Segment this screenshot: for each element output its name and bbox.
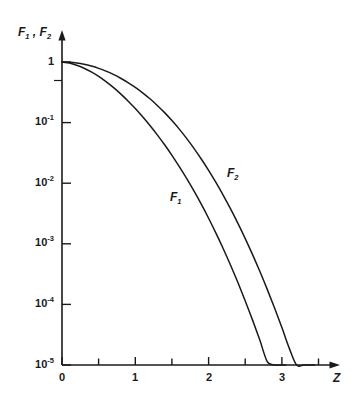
curve-label-f1: F1	[170, 191, 182, 203]
y-tick-label-1e-5: 10-5	[10, 359, 54, 370]
y-tick-label-1e-4: 10-4	[10, 298, 54, 309]
curve-label-f2: F2	[227, 167, 239, 179]
y-tick-label-1e-2: 10-2	[10, 177, 54, 188]
y-tick-label-1e-3: 10-3	[10, 237, 54, 248]
x-axis-title: Z	[333, 372, 340, 384]
y-axis-arrowhead	[58, 30, 65, 41]
x-tick-marks	[62, 357, 319, 365]
y-axis-title: F1 , F2	[18, 26, 51, 38]
figure-container: F1 , F2 Z 1 10-1 10-2 10-3 10-4 10-5 0 1…	[0, 0, 358, 408]
curve-f1	[62, 62, 286, 365]
x-tick-label-2: 2	[197, 372, 221, 383]
y-tick-label-1e-1: 10-1	[10, 116, 54, 127]
x-tick-label-3: 3	[270, 372, 294, 383]
y-tick-label-1e0: 1	[10, 56, 54, 67]
x-tick-label-1: 1	[123, 372, 147, 383]
x-tick-label-0: 0	[50, 372, 74, 383]
curve-f2	[62, 62, 315, 366]
x-axis-arrowhead	[330, 361, 341, 368]
